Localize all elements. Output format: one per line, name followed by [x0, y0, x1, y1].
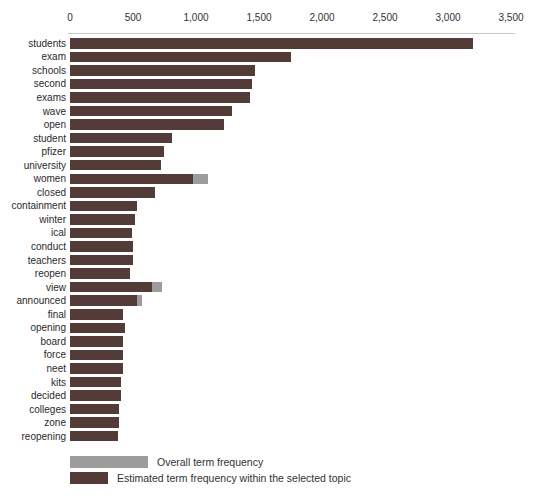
estimated-frequency-bar: [70, 228, 132, 239]
legend-item-overall: Overall term frequency: [70, 455, 263, 468]
term-label: reopening: [0, 431, 66, 442]
estimated-frequency-bar: [70, 187, 155, 198]
term-label: containment: [0, 200, 66, 211]
estimated-frequency-bar: [70, 363, 123, 374]
term-label: open: [0, 119, 66, 130]
estimated-frequency-bar: [70, 201, 137, 212]
term-label: winter: [0, 214, 66, 225]
estimated-frequency-bar: [70, 268, 130, 279]
estimated-frequency-bar: [70, 431, 118, 442]
x-axis-tick-label: 1,500: [246, 12, 271, 23]
term-label: student: [0, 133, 66, 144]
estimated-frequency-bar: [70, 133, 172, 144]
estimated-frequency-bar: [70, 106, 232, 117]
x-axis-line: [68, 33, 515, 34]
term-label: colleges: [0, 404, 66, 415]
estimated-frequency-bar: [70, 146, 164, 157]
term-label: final: [0, 309, 66, 320]
legend-item-estimated: Estimated term frequency within the sele…: [70, 471, 351, 484]
term-label: wave: [0, 106, 66, 117]
estimated-frequency-bar: [70, 214, 135, 225]
term-label: pfizer: [0, 146, 66, 157]
estimated-frequency-bar: [70, 323, 125, 334]
estimated-frequency-bar: [70, 174, 193, 185]
term-label: announced: [0, 295, 66, 306]
estimated-legend-swatch: [70, 472, 108, 484]
estimated-frequency-bar: [70, 390, 121, 401]
estimated-frequency-bar: [70, 38, 473, 49]
x-axis-tick-label: 500: [125, 12, 142, 23]
term-label: reopen: [0, 268, 66, 279]
term-label: neet: [0, 363, 66, 374]
term-label: force: [0, 349, 66, 360]
term-label: opening: [0, 322, 66, 333]
estimated-frequency-bar: [70, 241, 133, 252]
x-axis-tick-label: 1,000: [183, 12, 208, 23]
term-label: zone: [0, 417, 66, 428]
estimated-frequency-bar: [70, 295, 137, 306]
term-label: teachers: [0, 255, 66, 266]
estimated-frequency-bar: [70, 309, 123, 320]
term-label: board: [0, 336, 66, 347]
estimated-frequency-bar: [70, 160, 161, 171]
x-axis-tick-label: 0: [67, 12, 73, 23]
term-label: women: [0, 173, 66, 184]
term-label: closed: [0, 187, 66, 198]
x-axis-tick-label: 2,500: [372, 12, 397, 23]
x-axis-tick-label: 3,000: [435, 12, 460, 23]
estimated-legend-label: Estimated term frequency within the sele…: [117, 472, 351, 484]
term-label: students: [0, 38, 66, 49]
term-label: schools: [0, 65, 66, 76]
estimated-frequency-bar: [70, 336, 123, 347]
overall-legend-swatch: [70, 456, 148, 468]
estimated-frequency-bar: [70, 282, 152, 293]
estimated-frequency-bar: [70, 377, 121, 388]
estimated-frequency-bar: [70, 350, 123, 361]
estimated-frequency-bar: [70, 119, 224, 130]
estimated-frequency-bar: [70, 255, 133, 266]
term-label: decided: [0, 390, 66, 401]
overall-legend-label: Overall term frequency: [157, 456, 263, 468]
x-axis-tick-label: 3,500: [498, 12, 523, 23]
estimated-frequency-bar: [70, 404, 119, 415]
estimated-frequency-bar: [70, 52, 291, 63]
x-axis-tick-label: 2,000: [309, 12, 334, 23]
term-label: ical: [0, 227, 66, 238]
estimated-frequency-bar: [70, 92, 250, 103]
term-label: exams: [0, 92, 66, 103]
term-label: view: [0, 282, 66, 293]
estimated-frequency-bar: [70, 417, 119, 428]
estimated-frequency-bar: [70, 79, 252, 90]
term-label: kits: [0, 377, 66, 388]
term-label: second: [0, 78, 66, 89]
term-frequency-chart: 05001,0001,5002,0002,5003,0003,500 stude…: [0, 0, 533, 503]
term-label: conduct: [0, 241, 66, 252]
term-label: exam: [0, 51, 66, 62]
term-label: university: [0, 160, 66, 171]
estimated-frequency-bar: [70, 65, 255, 76]
